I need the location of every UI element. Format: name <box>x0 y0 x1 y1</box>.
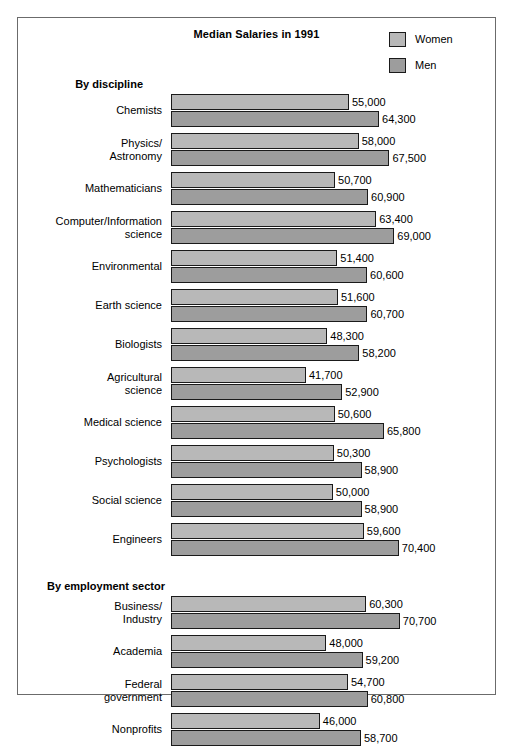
bar-value-label: 58,000 <box>359 133 396 149</box>
bar-women <box>171 328 327 344</box>
bar-value-label: 41,700 <box>306 367 343 383</box>
group-bars: 50,60065,800 <box>171 406 495 439</box>
bar-value-label: 58,900 <box>362 462 399 478</box>
bar-men <box>171 228 394 244</box>
bar-men <box>171 267 367 283</box>
bar-row: 58,000 <box>171 133 495 149</box>
bar-row: 59,600 <box>171 523 495 539</box>
bar-women <box>171 211 376 227</box>
bar-men <box>171 613 400 629</box>
category-label: Biologists <box>18 338 171 351</box>
bar-value-label: 59,600 <box>364 523 401 539</box>
bar-value-label: 67,500 <box>389 150 426 166</box>
chart-group: Mathematicians50,70060,900 <box>18 172 495 205</box>
group-bars: 51,60060,700 <box>171 289 495 322</box>
bar-value-label: 59,200 <box>363 652 400 668</box>
category-label: Physics/Astronomy <box>18 137 171 163</box>
group-bars: 48,30058,200 <box>171 328 495 361</box>
bar-value-label: 55,000 <box>349 94 386 110</box>
category-label: Engineers <box>18 533 171 546</box>
bar-value-label: 60,800 <box>368 691 405 707</box>
bar-row: 51,400 <box>171 250 495 266</box>
group-bars: 55,00064,300 <box>171 94 495 127</box>
group-bars: 60,30070,700 <box>171 596 495 629</box>
bar-men <box>171 189 368 205</box>
category-label: Mathematicians <box>18 182 171 195</box>
bar-value-label: 54,700 <box>348 674 385 690</box>
bar-women <box>171 445 334 461</box>
bar-men <box>171 150 389 166</box>
bar-row: 48,000 <box>171 635 495 651</box>
group-bars: 46,00058,700 <box>171 713 495 746</box>
category-label: Psychologists <box>18 455 171 468</box>
group-bars: 48,00059,200 <box>171 635 495 668</box>
bar-men <box>171 652 363 668</box>
chart-group: Agriculturalscience41,70052,900 <box>18 367 495 400</box>
bar-value-label: 50,600 <box>335 406 372 422</box>
chart-group: Psychologists50,30058,900 <box>18 445 495 478</box>
legend-item-women: Women <box>389 26 485 52</box>
bar-row: 50,000 <box>171 484 495 500</box>
chart-frame: Median Salaries in 1991 Women Men By dis… <box>17 17 496 695</box>
bar-row: 51,600 <box>171 289 495 305</box>
chart-legend: Women Men <box>389 26 485 78</box>
bar-value-label: 58,900 <box>362 501 399 517</box>
bar-row: 46,000 <box>171 713 495 729</box>
bar-women <box>171 635 326 651</box>
bar-men <box>171 306 367 322</box>
bar-row: 48,300 <box>171 328 495 344</box>
bar-men <box>171 691 368 707</box>
category-label: Social science <box>18 494 171 507</box>
bar-value-label: 50,700 <box>335 172 372 188</box>
bar-women <box>171 523 364 539</box>
bar-women <box>171 406 335 422</box>
category-label: Chemists <box>18 104 171 117</box>
legend-label-men: Men <box>415 59 436 71</box>
chart-group: Computer/Informationscience63,40069,000 <box>18 211 495 244</box>
bar-women <box>171 94 349 110</box>
category-label: Nonprofits <box>18 723 171 736</box>
bar-row: 60,800 <box>171 691 495 707</box>
bar-value-label: 60,700 <box>367 306 404 322</box>
category-label: Agriculturalscience <box>18 371 171 397</box>
category-label: Academia <box>18 645 171 658</box>
chart-group: Social science50,00058,900 <box>18 484 495 517</box>
bar-value-label: 70,700 <box>400 613 437 629</box>
bar-row: 64,300 <box>171 111 495 127</box>
bar-women <box>171 289 338 305</box>
bar-value-label: 58,700 <box>361 730 398 746</box>
bar-value-label: 51,600 <box>338 289 375 305</box>
category-label: Environmental <box>18 260 171 273</box>
chart-group: Chemists55,00064,300 <box>18 94 495 127</box>
bar-row: 69,000 <box>171 228 495 244</box>
bar-value-label: 60,300 <box>366 596 403 612</box>
bar-value-label: 48,000 <box>326 635 363 651</box>
bar-row: 54,700 <box>171 674 495 690</box>
chart-group: Environmental51,40060,600 <box>18 250 495 283</box>
bar-women <box>171 713 320 729</box>
bar-row: 58,900 <box>171 462 495 478</box>
category-label: Business/Industry <box>18 600 171 626</box>
bar-men <box>171 111 379 127</box>
bar-women <box>171 367 306 383</box>
category-label: Federalgovernment <box>18 678 171 704</box>
chart-group: Nonprofits46,00058,700 <box>18 713 495 746</box>
bar-row: 70,700 <box>171 613 495 629</box>
chart-group: Engineers59,60070,400 <box>18 523 495 556</box>
legend-swatch-women-icon <box>389 32 406 47</box>
bar-row: 52,900 <box>171 384 495 400</box>
chart-group: Biologists48,30058,200 <box>18 328 495 361</box>
bar-row: 58,900 <box>171 501 495 517</box>
bar-row: 60,900 <box>171 189 495 205</box>
bar-value-label: 52,900 <box>342 384 379 400</box>
bar-row: 65,800 <box>171 423 495 439</box>
category-label: Earth science <box>18 299 171 312</box>
bar-value-label: 65,800 <box>384 423 421 439</box>
chart-group: Federalgovernment54,70060,800 <box>18 674 495 707</box>
chart-group: Academia48,00059,200 <box>18 635 495 668</box>
legend-swatch-men-icon <box>389 58 406 73</box>
bar-row: 60,700 <box>171 306 495 322</box>
section-heading: By discipline <box>18 74 171 94</box>
group-bars: 51,40060,600 <box>171 250 495 283</box>
group-bars: 50,00058,900 <box>171 484 495 517</box>
